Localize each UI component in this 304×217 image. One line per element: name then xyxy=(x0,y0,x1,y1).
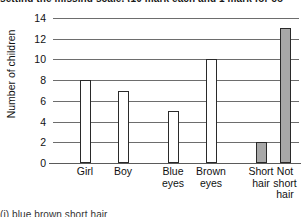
x-tick-label-line: eyes xyxy=(185,178,237,190)
y-tick-label: 2 xyxy=(24,137,46,147)
bar-girl xyxy=(80,80,91,163)
bar-brown-eyes xyxy=(206,59,217,163)
bar-short-hair xyxy=(256,142,267,163)
x-tick-label-line: hair xyxy=(259,189,304,201)
y-tick-label: 0 xyxy=(24,158,46,168)
x-tick-label: Boy xyxy=(97,166,149,178)
bar-chart: Number of children 02468101214 GirlBoyBl… xyxy=(0,0,304,217)
y-tick-label: 4 xyxy=(24,117,46,127)
y-axis-title: Number of children xyxy=(5,19,17,129)
y-tick-label: 8 xyxy=(24,75,46,85)
bar-boy xyxy=(118,91,129,164)
y-tick-label: 10 xyxy=(24,54,46,64)
bar-not-short-hair xyxy=(280,28,291,163)
x-tick-label: Notshorthair xyxy=(259,166,304,201)
x-tick-label: Browneyes xyxy=(185,166,237,189)
y-tick-label: 12 xyxy=(24,34,46,44)
bar-blue-eyes xyxy=(168,111,179,163)
x-axis-line xyxy=(49,163,301,164)
chart-page: setting the missing scale. (10 mark each… xyxy=(0,0,304,217)
plot-area xyxy=(53,18,299,163)
y-tick-label: 14 xyxy=(24,13,46,23)
x-tick-label-line: Brown xyxy=(185,166,237,178)
x-tick-label-line: Not xyxy=(259,166,304,178)
cropped-footer-text: (i) blue brown short hair xyxy=(0,210,304,217)
x-tick-label-line: Boy xyxy=(97,166,149,178)
y-tick-label: 6 xyxy=(24,96,46,106)
